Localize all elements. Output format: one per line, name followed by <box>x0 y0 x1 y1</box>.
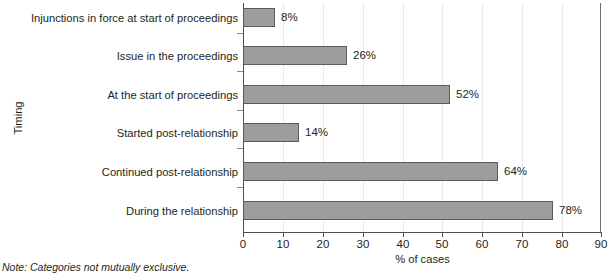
x-tick-label: 80 <box>547 239 577 251</box>
bar <box>243 8 275 27</box>
x-tick <box>363 232 364 237</box>
category-label: Issue in the proceedings <box>0 51 238 62</box>
x-tick <box>562 232 563 237</box>
bar <box>243 162 498 181</box>
y-tick <box>237 187 243 188</box>
bar-value-label: 52% <box>456 89 479 101</box>
y-tick <box>237 33 243 34</box>
x-tick <box>522 232 523 237</box>
y-tick <box>237 110 243 111</box>
x-tick-label: 60 <box>467 239 497 251</box>
bar <box>243 123 299 142</box>
category-label: During the relationship <box>0 206 238 217</box>
y-axis-line <box>243 3 244 233</box>
x-axis-line <box>243 232 602 233</box>
x-tick-label: 50 <box>427 239 457 251</box>
y-axis-title: Timing <box>13 101 24 134</box>
y-tick <box>237 71 243 72</box>
x-tick <box>323 232 324 237</box>
bar-value-label: 26% <box>353 50 376 62</box>
x-tick-label: 20 <box>308 239 338 251</box>
x-tick-label: 0 <box>228 239 258 251</box>
plot-area <box>243 3 601 232</box>
bar-value-label: 8% <box>281 12 298 24</box>
x-tick <box>442 232 443 237</box>
x-tick <box>482 232 483 237</box>
x-tick-label: 70 <box>507 239 537 251</box>
category-label: Injunctions in force at start of proceed… <box>0 13 238 24</box>
x-tick <box>403 232 404 237</box>
category-label: Continued post-relationship <box>0 167 238 178</box>
x-tick <box>243 232 244 237</box>
x-axis-title: % of cases <box>243 254 602 265</box>
y-tick <box>237 148 243 149</box>
x-tick-label: 90 <box>586 239 612 251</box>
bar-value-label: 64% <box>504 166 527 178</box>
x-tick <box>283 232 284 237</box>
x-tick-label: 10 <box>268 239 298 251</box>
category-label: At the start of proceedings <box>0 90 238 101</box>
footnote: Note: Categories not mutually exclusive. <box>2 262 189 273</box>
bar-chart: Injunctions in force at start of proceed… <box>0 0 612 277</box>
bar <box>243 85 450 104</box>
bar-value-label: 14% <box>305 127 328 139</box>
x-tick-label: 30 <box>348 239 378 251</box>
bar <box>243 201 553 220</box>
x-tick-label: 40 <box>388 239 418 251</box>
x-tick <box>601 232 602 237</box>
bar <box>243 46 347 65</box>
bar-value-label: 78% <box>559 205 582 217</box>
category-label: Started post-relationship <box>0 128 238 139</box>
